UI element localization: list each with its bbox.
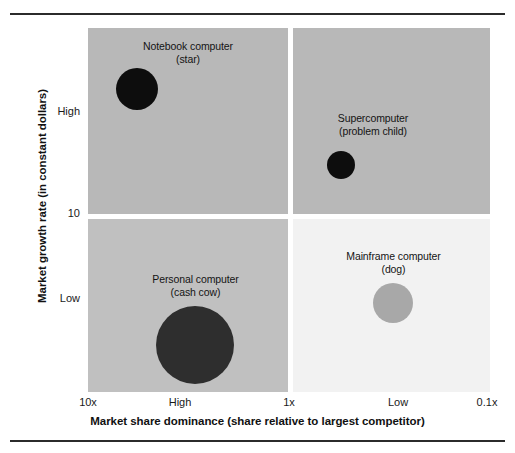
xtick-low: Low xyxy=(368,396,428,408)
label-supercomputer-category: (problem child) xyxy=(293,125,453,138)
bubble-notebook xyxy=(116,68,158,110)
label-personal: Personal computer (cash cow) xyxy=(108,273,283,298)
label-supercomputer: Supercomputer (problem child) xyxy=(293,112,453,137)
xtick-1x: 1x xyxy=(259,396,319,408)
xtick-0.1x: 0.1x xyxy=(457,396,515,408)
label-personal-category: (cash cow) xyxy=(108,286,283,299)
label-mainframe: Mainframe computer (dog) xyxy=(306,250,481,275)
label-notebook-name: Notebook computer xyxy=(98,40,278,53)
xtick-10x: 10x xyxy=(58,396,118,408)
plot-area: Notebook computer (star) Supercomputer (… xyxy=(88,28,490,392)
bottom-divider-rule xyxy=(10,440,505,442)
label-supercomputer-name: Supercomputer xyxy=(293,112,453,125)
bubble-personal xyxy=(156,306,234,384)
label-personal-name: Personal computer xyxy=(108,273,283,286)
x-axis-title: Market share dominance (share relative t… xyxy=(0,415,515,427)
label-notebook: Notebook computer (star) xyxy=(98,40,278,65)
bubble-mainframe xyxy=(373,283,413,323)
label-mainframe-name: Mainframe computer xyxy=(306,250,481,263)
label-notebook-category: (star) xyxy=(98,53,278,66)
top-divider-rule xyxy=(10,13,505,15)
xtick-high: High xyxy=(150,396,210,408)
bubble-supercomputer xyxy=(327,151,355,179)
label-mainframe-category: (dog) xyxy=(306,263,481,276)
y-axis-title: Market growth rate (in constant dollars) xyxy=(36,46,48,346)
bcg-matrix-figure: Notebook computer (star) Supercomputer (… xyxy=(0,0,515,453)
